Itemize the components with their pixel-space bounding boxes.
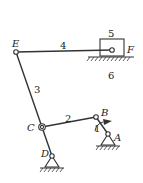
label-link-3: 3 — [34, 84, 40, 95]
link-3 — [16, 52, 52, 156]
label-f: F — [126, 44, 135, 55]
linkage-diagram: E F C D B A 1 2 3 4 5 6 — [0, 0, 143, 183]
label-c: C — [27, 122, 35, 133]
label-link-6: 6 — [108, 70, 114, 81]
joint-d — [50, 154, 54, 158]
label-d: D — [40, 148, 49, 159]
label-link-2: 2 — [65, 113, 71, 124]
label-b: B — [100, 107, 108, 118]
joint-c-inner — [40, 125, 43, 128]
joint-f — [110, 48, 115, 53]
label-e: E — [11, 38, 20, 49]
joint-a — [106, 132, 110, 136]
label-link-5: 5 — [108, 28, 114, 39]
ground-guide-6 — [87, 57, 134, 61]
label-a: A — [113, 132, 121, 143]
label-link-1: 1 — [94, 123, 100, 134]
joint-b — [94, 115, 99, 120]
joint-e — [14, 50, 19, 55]
label-link-4: 4 — [60, 40, 66, 51]
